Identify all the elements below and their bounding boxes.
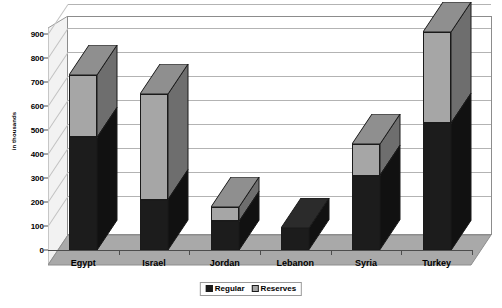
bar-column (281, 228, 309, 250)
x-axis-category-label: Turkey (422, 258, 451, 268)
x-axis-tick-mark (260, 250, 261, 255)
x-axis-category-label: Lebanon (277, 258, 315, 268)
bar-top-face (352, 114, 402, 146)
y-axis-tick-label: 800 (31, 54, 44, 63)
bar-segment-reserves (69, 75, 97, 137)
x-axis-tick-mark (119, 250, 120, 255)
bar-top-face (140, 64, 190, 96)
bar-segment-regular (211, 221, 239, 250)
bar-segment-regular (69, 137, 97, 250)
bar-column (211, 207, 239, 250)
x-axis-category-label: Israel (142, 258, 166, 268)
x-axis-category-label: Egypt (71, 258, 96, 268)
bar-column (423, 32, 451, 250)
y-axis-tick-labels: 0100200300400500600700800900 (22, 0, 48, 308)
bar-column (352, 144, 380, 250)
plot-area (48, 16, 492, 264)
bar-top-face (423, 2, 473, 34)
y-axis-tick-label: 100 (31, 222, 44, 231)
bar-top-face (69, 45, 119, 77)
bar-segment-regular (423, 123, 451, 250)
legend-swatch-regular-icon (206, 285, 213, 292)
legend-item-regular: Regular (206, 284, 245, 293)
y-axis-tick-label: 900 (31, 30, 44, 39)
bar-segment-reserves (140, 94, 168, 200)
bar-segment-reserves (211, 207, 239, 221)
y-axis-title: in thousands (11, 91, 17, 171)
legend-item-reserves: Reserves (252, 284, 297, 293)
bar-top-face (281, 198, 331, 230)
bar-side-face (451, 2, 473, 252)
x-axis-category-label: Jordan (210, 258, 240, 268)
y-axis-tick-label: 500 (31, 126, 44, 135)
chart-container: in thousands 010020030040050060070080090… (0, 0, 502, 308)
y-axis-tick-label: 600 (31, 102, 44, 111)
x-axis-tick-mark (401, 250, 402, 255)
bar-top-face (211, 177, 261, 209)
bar-segment-regular (281, 228, 309, 250)
y-axis-tick-label: 300 (31, 174, 44, 183)
bar-segment-reserves (423, 32, 451, 123)
x-axis-category-label: Syria (355, 258, 377, 268)
bar-segment-regular (352, 176, 380, 250)
x-axis-tick-mark (472, 250, 473, 255)
legend-label-regular: Regular (215, 284, 245, 293)
y-axis-tick-label: 400 (31, 150, 44, 159)
chart-legend: Regular Reserves (200, 282, 302, 296)
y-axis-tick-label: 700 (31, 78, 44, 87)
x-axis-tick-mark (331, 250, 332, 255)
bar-segment-regular (140, 200, 168, 250)
legend-swatch-reserves-icon (252, 285, 259, 292)
bar-segment-reserves (352, 144, 380, 175)
bar-column (69, 75, 97, 250)
x-axis-tick-mark (189, 250, 190, 255)
y-axis-tick-label: 200 (31, 198, 44, 207)
bar-column (140, 94, 168, 250)
legend-label-reserves: Reserves (261, 284, 297, 293)
